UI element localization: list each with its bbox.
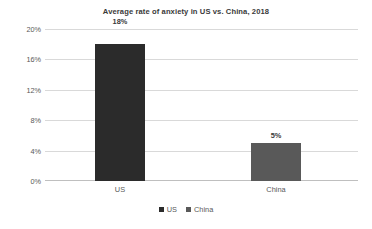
y-axis-tick-label: 0% [11,177,41,186]
legend-label-china: China [194,205,213,214]
gridline-4 [45,151,358,152]
gridline-16 [45,59,358,60]
y-axis-tick-label: 8% [11,116,41,125]
gridline-20 [45,29,358,30]
plot-area: 18% 5% [45,29,358,181]
legend-label-us: US [167,205,177,214]
x-axis-tick-label-china: China [266,185,285,194]
axis-baseline [45,180,358,181]
legend-item-us[interactable]: US [159,205,177,214]
y-axis: 20% 16% 12% 8% 4% 0% [8,29,41,181]
y-axis-tick-label: 12% [11,85,41,94]
y-axis-tick-label: 16% [11,55,41,64]
bar-chart: Average rate of anxiety in US vs. China,… [0,0,372,229]
bar-china[interactable] [251,143,301,181]
chart-legend: US China [0,205,372,214]
bar-us[interactable] [95,44,145,181]
y-axis-tick-label: 20% [11,25,41,34]
x-axis-tick-label-us: US [115,185,125,194]
bar-value-label-us: 18% [113,17,128,26]
legend-swatch-icon [159,207,164,212]
chart-title: Average rate of anxiety in US vs. China,… [0,7,372,16]
legend-swatch-icon [186,207,191,212]
y-axis-tick-label: 4% [11,146,41,155]
gridline-12 [45,90,358,91]
legend-item-china[interactable]: China [186,205,213,214]
gridline-8 [45,120,358,121]
bar-value-label-china: 5% [271,131,282,140]
